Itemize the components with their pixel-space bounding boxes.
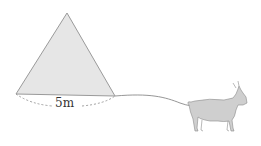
side-length-label: 5m xyxy=(55,96,74,110)
goat-icon xyxy=(188,81,247,131)
diagram-canvas xyxy=(0,0,261,146)
equilateral-triangle xyxy=(16,13,115,96)
